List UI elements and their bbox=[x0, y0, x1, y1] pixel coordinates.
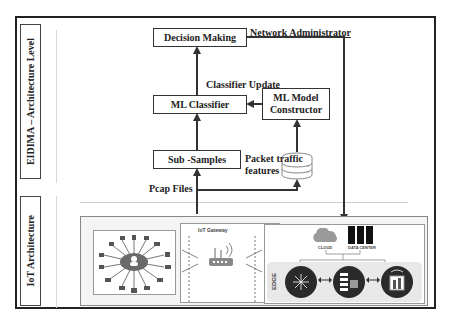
level-separator bbox=[80, 202, 408, 203]
arrowhead-left bbox=[246, 100, 254, 108]
arrowhead-up bbox=[192, 113, 202, 121]
ml-classifier-box: ML Classifier bbox=[153, 95, 247, 114]
ml-classifier-text: ML Classifier bbox=[171, 99, 230, 111]
arrowhead-up bbox=[292, 119, 302, 127]
bidirectional-arrow-icon bbox=[366, 277, 380, 283]
arrow-pcap-to-db bbox=[197, 189, 297, 191]
cloud-user-hub-icon bbox=[94, 231, 175, 294]
arrow-iot-to-subsamples bbox=[196, 172, 198, 214]
arrow-subsamples-to-classifier bbox=[196, 117, 198, 150]
edge-node-network-icon bbox=[283, 264, 319, 300]
cloud-icon bbox=[310, 228, 340, 243]
datacenter-icon bbox=[348, 226, 374, 244]
guide-line bbox=[56, 30, 57, 183]
guide-line bbox=[56, 196, 57, 308]
network-admin-line-h bbox=[247, 36, 345, 38]
edge-label: EDGE bbox=[271, 273, 277, 290]
ml-model-constructor-box: ML Model Constructor bbox=[262, 88, 330, 120]
eidima-level-text: EIDIMA – Architecture Level bbox=[25, 38, 36, 165]
eidima-level-label: EIDIMA – Architecture Level bbox=[20, 24, 41, 179]
classifier-update-label: Classifier Update bbox=[206, 79, 280, 91]
iot-gateway-title: IoT Gateway bbox=[198, 227, 227, 233]
edge-node-server-icon bbox=[331, 264, 367, 300]
edge-node-device-icon bbox=[379, 264, 415, 300]
ml-model-constructor-text-2: Constructor bbox=[270, 104, 322, 116]
network-admin-line-v bbox=[343, 36, 345, 218]
sub-samples-text: Sub -Samples bbox=[168, 154, 226, 166]
iot-architecture-text: IoT Architecture bbox=[25, 215, 36, 286]
bidirectional-arrow-icon bbox=[318, 277, 332, 283]
packet-traffic-label-1: Packet traffic bbox=[245, 153, 303, 165]
pcap-files-label: Pcap Files bbox=[149, 183, 193, 195]
arrowhead-up bbox=[192, 46, 202, 54]
decision-making-text: Decision Making bbox=[164, 32, 236, 44]
arrow-classifier-to-decision bbox=[196, 50, 198, 95]
arrowhead-up bbox=[192, 168, 202, 176]
arrow-db-to-constructor bbox=[296, 124, 298, 152]
devices-hub-panel bbox=[93, 230, 176, 295]
iot-architecture-label: IoT Architecture bbox=[20, 196, 41, 306]
edge-label-wrap: EDGE bbox=[268, 262, 280, 302]
decision-making-box: Decision Making bbox=[153, 28, 247, 47]
sub-samples-box: Sub -Samples bbox=[153, 150, 241, 169]
ml-model-constructor-text-1: ML Model bbox=[273, 92, 318, 104]
arrowhead-up bbox=[292, 179, 302, 187]
packet-traffic-label-2: features bbox=[245, 165, 279, 177]
